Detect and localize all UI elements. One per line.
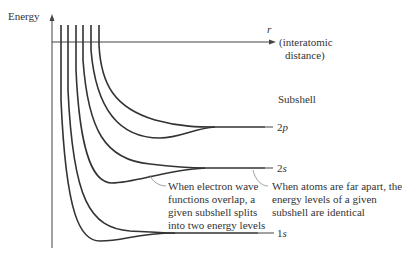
annotation-overlap-line4: into two energy levels [168, 219, 265, 231]
annotation-overlap-line1: When electron wave [168, 180, 259, 192]
curve-2p-upper [99, 25, 265, 127]
annotation-overlap-line2: functions overlap, a [168, 193, 255, 205]
x-axis-symbol: r [267, 23, 272, 35]
x-axis-arrow-icon [269, 40, 276, 45]
y-axis-arrow-icon [50, 14, 55, 21]
energy-level-diagram: Energy r (interatomic distance) Subshell… [0, 0, 410, 256]
x-axis-desc-line1: (interatomic [279, 36, 333, 49]
x-axis-desc-line2: distance) [285, 49, 325, 62]
level-label-2p: 2p [277, 121, 289, 133]
level-label-1s: 1s [277, 227, 287, 239]
subshell-header: Subshell [278, 93, 316, 105]
annotation-apart-line1: When atoms are far apart, the [272, 180, 402, 192]
level-label-2s: 2s [277, 162, 287, 174]
curve-2s-lower [76, 25, 205, 183]
curve-1s-lower [61, 25, 175, 241]
annotation-overlap-line3: given subshell splits [168, 206, 257, 218]
annotation-apart-line2: energy levels of a given [272, 193, 377, 205]
curve-2s-upper [83, 25, 265, 168]
annotation-apart-line3: subshell are identical [272, 206, 365, 218]
y-axis-label: Energy [8, 10, 40, 22]
